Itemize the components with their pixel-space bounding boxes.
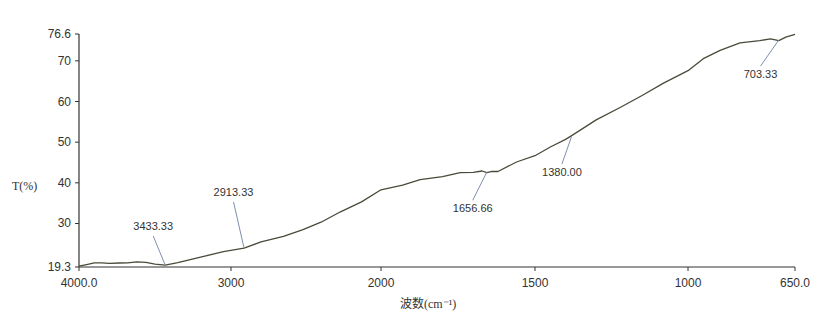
spectrum-line [79,34,795,266]
y-tick-label: 76.6 [48,27,72,41]
annotation-leader-line [153,236,165,265]
peak-label: 2913.33 [214,186,254,198]
spectrum-path [79,34,795,266]
x-tick-label: 4000.0 [61,276,98,290]
x-axis-title: 波数(cm⁻¹) [400,296,456,311]
x-tick-label: 1000 [675,276,702,290]
x-tick-label: 1500 [522,276,549,290]
y-axis-ticks: 19.3304050607076.6 [48,27,79,274]
ir-spectrum-chart: 19.3304050607076.6 4000.0300020001500100… [0,0,824,321]
y-tick-label: 30 [58,216,72,230]
y-tick-label: 60 [58,95,72,109]
annotation-leader-line [473,172,487,200]
x-tick-label: 650.0 [780,276,810,290]
x-tick-label: 2000 [368,276,395,290]
y-axis-title: T(%) [12,179,37,193]
peak-label: 1656.66 [453,202,493,214]
y-tick-label: 19.3 [48,260,72,274]
axes [79,34,795,267]
peak-label: 703.33 [744,68,778,80]
peak-label: 1380.00 [542,166,582,178]
annotation-leader-line [234,202,245,248]
annotation-leader-line [760,40,778,66]
x-tick-label: 3000 [218,276,245,290]
y-tick-label: 50 [58,135,72,149]
y-tick-label: 70 [58,54,72,68]
y-tick-label: 40 [58,176,72,190]
x-axis-ticks: 4000.03000200015001000650.0 [61,267,811,290]
peak-label: 3433.33 [133,220,173,232]
